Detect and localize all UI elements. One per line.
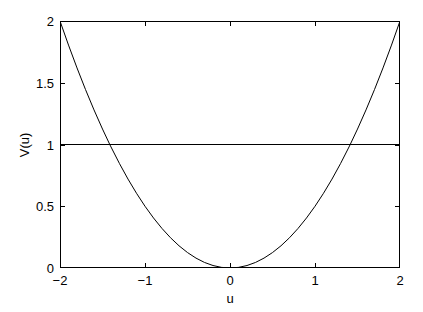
x-tick-label: 1: [311, 274, 318, 287]
x-axis-label: u: [226, 292, 233, 305]
figure-canvas: 00.511.52 −2−1012 V(u) u: [0, 0, 423, 312]
y-tick-label: 1.5: [36, 76, 54, 89]
y-tick-label: 1: [47, 138, 54, 151]
y-axis-label: V(u): [18, 132, 31, 157]
y-tick-label: 2: [47, 15, 54, 28]
plot-svg: [60, 21, 400, 268]
plot-area: [60, 21, 400, 268]
x-tick-label: −1: [138, 274, 153, 287]
y-tick-label: 0.5: [36, 200, 54, 213]
x-tick-label: −2: [53, 274, 68, 287]
x-tick-label: 0: [226, 274, 233, 287]
x-tick-label: 2: [396, 274, 403, 287]
